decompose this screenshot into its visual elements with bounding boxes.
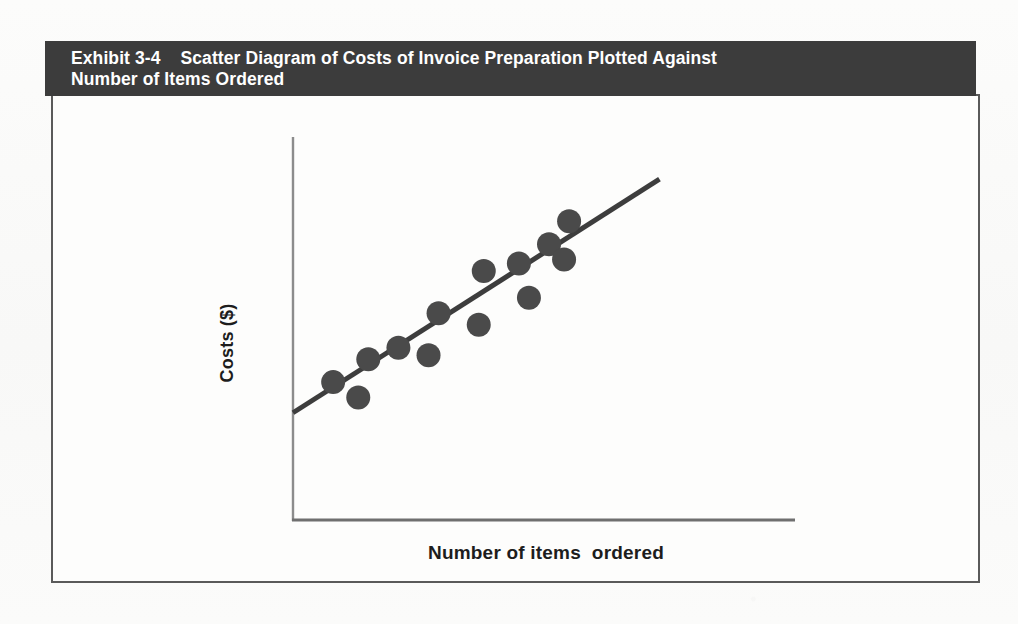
exhibit-title-banner: Exhibit 3-4 Scatter Diagram of Costs of … bbox=[45, 41, 976, 96]
exhibit-title-line-1: Exhibit 3-4 Scatter Diagram of Costs of … bbox=[71, 48, 976, 69]
y-axis-label: Costs ($) bbox=[217, 258, 238, 428]
exhibit-title-line-2: Number of Items Ordered bbox=[71, 69, 976, 90]
x-axis-label: Number of items ordered bbox=[296, 542, 796, 564]
exhibit-frame bbox=[51, 94, 980, 583]
